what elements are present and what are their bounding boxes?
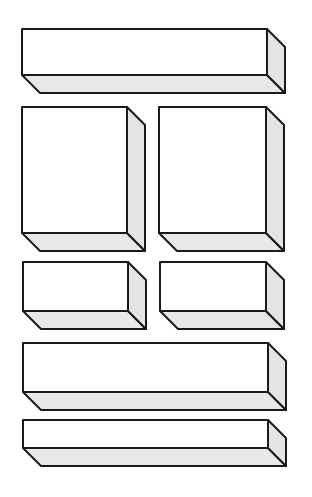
box-front-face [22,29,267,75]
box-front-face [159,107,266,233]
box-bottom-face [23,448,286,466]
box-front-face [22,107,127,233]
box-front-face [23,343,268,392]
box-bottom-face [22,75,285,93]
box-4 [23,262,146,329]
box-layout-diagram [0,0,312,497]
box-bottom-face [160,311,284,329]
box-bottom-face [22,233,145,251]
box-bottom-face [23,392,286,410]
box-bottom-face [159,233,284,251]
box-7 [23,420,286,466]
box-5 [160,262,284,329]
box-1 [22,29,285,93]
box-front-face [23,262,128,311]
box-bottom-face [23,311,146,329]
box-side-face [266,107,284,251]
box-front-face [160,262,266,311]
box-2 [22,107,145,251]
box-side-face [127,107,145,251]
box-6 [23,343,286,410]
box-3 [159,107,284,251]
box-front-face [23,420,268,448]
